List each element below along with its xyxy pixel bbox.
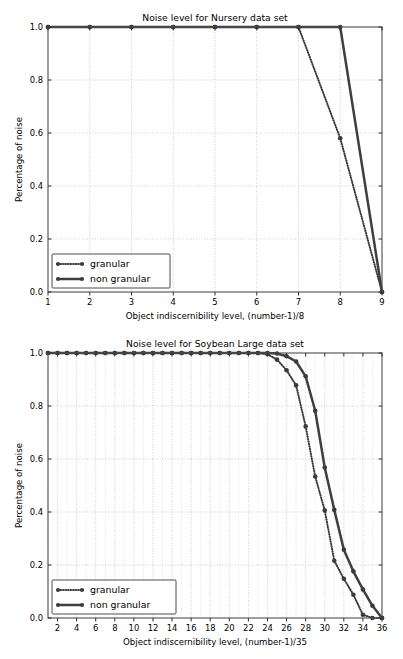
x-tick-label: 7 <box>296 297 301 307</box>
legend-item-non-granular-label: non granular <box>90 599 150 610</box>
x-tick-label: 32 <box>338 623 349 633</box>
chart-svg-soybean: 246810121416182022242628303234360.00.20.… <box>0 330 403 659</box>
y-tick-label: 0.2 <box>30 560 43 570</box>
x-tick-label: 22 <box>243 623 254 633</box>
x-tick-label: 24 <box>262 623 273 633</box>
chart-title: Noise level for Nursery data set <box>142 12 288 23</box>
x-tick-label: 2 <box>55 623 60 633</box>
data-point-marker <box>322 508 327 513</box>
legend-item-granular-marker-left <box>56 262 60 266</box>
data-point-marker <box>351 569 356 574</box>
plot-group-soybean: 246810121416182022242628303234360.00.20.… <box>14 338 387 647</box>
x-tick-label: 34 <box>358 623 369 633</box>
x-tick-label: 4 <box>171 297 176 307</box>
data-point-marker <box>322 465 327 470</box>
data-point-marker <box>361 613 366 618</box>
x-tick-label: 3 <box>129 297 134 307</box>
data-point-marker <box>370 604 375 609</box>
data-point-marker <box>303 374 308 379</box>
x-tick-label: 20 <box>224 623 235 633</box>
data-point-marker <box>338 136 343 141</box>
chart-svg-nursery: 1234567890.00.20.40.60.81.0Noise level f… <box>0 0 403 330</box>
y-tick-label: 0.8 <box>30 401 43 411</box>
data-point-marker <box>342 547 347 552</box>
x-tick-label: 6 <box>93 623 98 633</box>
y-tick-label: 0.8 <box>30 75 43 85</box>
x-tick-label: 28 <box>300 623 311 633</box>
data-point-marker <box>294 383 299 388</box>
legend-item-granular-marker-right <box>80 262 84 266</box>
data-point-marker <box>332 508 337 513</box>
legend-item-non-granular-marker-right <box>80 277 84 281</box>
figure-nursery-noise-level: 1234567890.00.20.40.60.81.0Noise level f… <box>0 0 403 330</box>
legend-item-granular-marker-right <box>80 588 84 592</box>
chart-title: Noise level for Soybean Large data set <box>126 338 304 349</box>
x-axis-label: Object indiscernibility level, (number-1… <box>123 637 307 647</box>
x-tick-label: 30 <box>319 623 330 633</box>
series-line-non-granular <box>48 353 382 618</box>
legend-item-non-granular-marker-left <box>56 277 60 281</box>
y-axis-label: Percentage of noise <box>14 443 24 528</box>
x-tick-label: 4 <box>74 623 79 633</box>
x-tick-label: 18 <box>205 623 216 633</box>
data-point-marker <box>342 576 347 581</box>
x-tick-label: 36 <box>377 623 388 633</box>
data-point-marker <box>284 368 289 373</box>
plot-frame <box>48 353 382 618</box>
x-tick-label: 10 <box>129 623 140 633</box>
x-tick-label: 5 <box>212 297 217 307</box>
y-axis-label: Percentage of noise <box>14 117 24 202</box>
y-tick-label: 0.6 <box>30 128 43 138</box>
data-point-marker <box>361 587 366 592</box>
x-tick-label: 8 <box>338 297 343 307</box>
x-tick-label: 26 <box>281 623 292 633</box>
y-tick-label: 0.6 <box>30 454 43 464</box>
x-tick-label: 14 <box>167 623 178 633</box>
x-tick-label: 9 <box>379 297 384 307</box>
data-point-marker <box>313 474 318 479</box>
x-tick-label: 12 <box>148 623 159 633</box>
legend-item-non-granular-marker-right <box>80 603 84 607</box>
y-tick-label: 0.4 <box>30 181 43 191</box>
x-tick-label: 16 <box>186 623 197 633</box>
legend-item-granular-marker-left <box>56 588 60 592</box>
data-point-marker <box>332 558 337 563</box>
data-point-marker <box>303 424 308 429</box>
series-line-granular <box>48 353 382 618</box>
y-tick-label: 0.2 <box>30 234 43 244</box>
figure-soybean-noise-level: 246810121416182022242628303234360.00.20.… <box>0 330 403 659</box>
data-point-marker <box>294 359 299 364</box>
data-point-marker <box>275 357 280 362</box>
x-tick-label: 1 <box>45 297 50 307</box>
legend-item-granular-label: granular <box>90 584 130 595</box>
y-tick-label: 0.0 <box>30 613 43 623</box>
legend-item-granular-label: granular <box>90 258 130 269</box>
y-tick-label: 1.0 <box>30 348 43 358</box>
x-tick-label: 2 <box>87 297 92 307</box>
x-tick-label: 6 <box>254 297 259 307</box>
y-tick-label: 0.4 <box>30 507 43 517</box>
legend-item-non-granular-marker-left <box>56 603 60 607</box>
data-point-marker <box>313 408 318 413</box>
y-tick-label: 0.0 <box>30 287 43 297</box>
legend-item-non-granular-label: non granular <box>90 273 150 284</box>
x-tick-label: 8 <box>112 623 117 633</box>
data-point-marker <box>351 592 356 597</box>
y-tick-label: 1.0 <box>30 22 43 32</box>
x-axis-label: Object indiscernibility level, (number-1… <box>126 311 304 321</box>
plot-group-nursery: 1234567890.00.20.40.60.81.0Noise level f… <box>14 12 385 321</box>
